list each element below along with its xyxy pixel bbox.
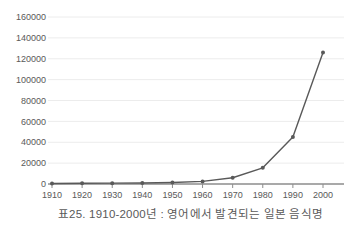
x-axis-tick-label: 2000 [313,190,333,200]
data-point [110,181,114,185]
x-axis-tick-label: 1940 [132,190,152,200]
data-point [201,179,205,183]
data-point [140,181,144,185]
y-axis-tick-label: 120000 [16,54,46,64]
chart-figure: 0200004000060000800001000001200001400001… [0,0,353,228]
x-axis-tick-label: 1920 [72,190,92,200]
y-axis-tick-label: 100000 [16,75,46,85]
data-point [231,176,235,180]
y-axis-tick-label: 140000 [16,33,46,43]
y-axis-tick-label: 160000 [16,12,46,22]
y-axis-tick-label: 40000 [21,137,46,147]
y-axis-tick-label: 80000 [21,96,46,106]
y-axis-tick-label: 20000 [21,158,46,168]
data-point [50,181,54,185]
data-point [291,135,295,139]
y-axis-tick-label: 0 [41,179,46,189]
x-axis-tick-label: 1910 [42,190,62,200]
y-axis-tick-label: 60000 [21,117,46,127]
data-point [170,180,174,184]
data-point [261,166,265,170]
x-axis-tick-label: 1990 [283,190,303,200]
x-axis-tick-label: 1960 [193,190,213,200]
x-axis-tick-label: 1930 [102,190,122,200]
line-chart: 0200004000060000800001000001200001400001… [0,0,353,204]
data-point [321,50,325,54]
data-line [52,52,323,183]
data-point [80,181,84,185]
x-axis-tick-label: 1980 [253,190,273,200]
chart-caption: 표25. 1910-2000년 : 영어에서 발견되는 일본 음식명 [28,207,353,221]
x-axis-tick-label: 1950 [162,190,182,200]
x-axis-tick-label: 1970 [223,190,243,200]
